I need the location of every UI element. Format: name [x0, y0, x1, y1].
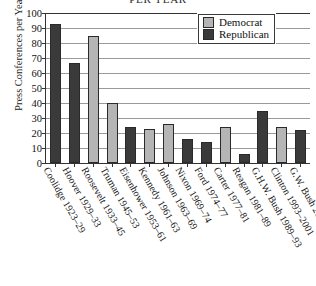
bar-slot [272, 13, 291, 163]
bar-slot [140, 13, 159, 163]
bar-slot [65, 13, 84, 163]
bar-slot [121, 13, 140, 163]
legend-label-republican: Republican [219, 29, 269, 41]
press-conferences-bar-chart: PER YEAR Press Conferences per Year 1009… [0, 0, 316, 286]
bar-slot [159, 13, 178, 163]
bar-republican [182, 139, 193, 163]
bar-republican [69, 63, 80, 164]
legend-swatch-democrat-icon [203, 17, 214, 28]
bar-republican [201, 142, 212, 163]
bar-democrat [276, 127, 287, 163]
legend-label-democrat: Democrat [219, 17, 262, 29]
y-axis-tick-mark [42, 163, 46, 164]
bar-republican [50, 24, 61, 164]
bar-republican [239, 154, 250, 163]
bar-democrat [144, 129, 155, 164]
chart-legend: Democrat Republican [198, 14, 275, 44]
bar-slot [103, 13, 122, 163]
y-axis-title: Press Conferences per Year [13, 0, 24, 129]
bar-republican [295, 130, 306, 163]
bar-democrat [107, 103, 118, 163]
chart-title: PER YEAR [0, 0, 316, 5]
legend-item-democrat: Democrat [203, 17, 269, 29]
legend-swatch-republican-icon [203, 29, 214, 40]
bar-democrat [163, 124, 174, 163]
bar-slot [46, 13, 65, 163]
bar-democrat [88, 36, 99, 164]
bar-republican [257, 111, 268, 164]
x-axis-labels: Coolidge 1923–29Hoover 1929–33Roosevelt … [45, 165, 309, 283]
bar-slot [84, 13, 103, 163]
bar-democrat [220, 127, 231, 163]
bar-republican [125, 127, 136, 163]
legend-item-republican: Republican [203, 29, 269, 41]
bar-slot [291, 13, 310, 163]
bar-slot [178, 13, 197, 163]
